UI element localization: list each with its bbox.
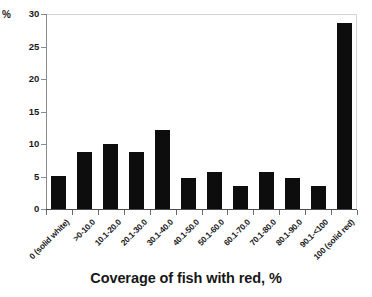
y-axis-tick-label: 25 [17,41,39,52]
y-axis-tick [41,112,46,113]
bar [207,172,222,209]
y-axis-unit-label: % [2,9,11,20]
y-axis-tick-label: 15 [17,106,39,117]
x-axis-tick [176,210,177,215]
x-axis-tick [46,210,47,215]
plot-area [46,14,357,210]
bar [233,186,248,209]
x-axis-tick [279,210,280,215]
bar [155,130,170,209]
y-axis-tick [41,14,46,15]
y-axis-tick-label: 10 [17,138,39,149]
bar [103,144,118,209]
y-axis-tick [41,177,46,178]
bar [285,178,300,209]
y-axis-tick [41,144,46,145]
bar [129,152,144,209]
x-axis-title: Coverage of fish with red, % [0,270,372,286]
y-axis-line [46,14,47,210]
x-axis-tick [305,210,306,215]
bar-chart-figure: % 051015202530 0 (solid white)>0-10.010.… [0,0,372,297]
x-axis-tick [98,210,99,215]
x-axis-tick [124,210,125,215]
bar [51,176,66,209]
bar [259,172,274,209]
x-axis-tick [227,210,228,215]
x-axis-tick [202,210,203,215]
x-axis-tick [72,210,73,215]
y-axis-tick [41,79,46,80]
y-axis-tick [41,47,46,48]
x-axis-tick [150,210,151,215]
bar [311,186,326,209]
x-axis-tick [331,210,332,215]
y-axis-tick-label: 20 [17,73,39,84]
x-axis-tick [253,210,254,215]
bar [181,178,196,209]
x-axis-tick [357,210,358,215]
y-axis-tick-label: 5 [17,171,39,182]
y-axis-tick-label: 0 [17,203,39,214]
y-axis-tick-label: 30 [17,8,39,19]
bar [337,23,352,209]
bar [77,152,92,209]
